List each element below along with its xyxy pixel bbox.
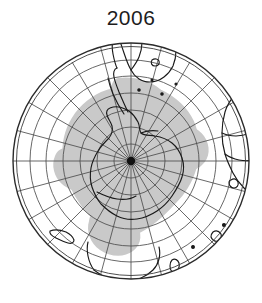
island-macquarie [235,251,237,253]
polar-map [0,32,262,294]
island-heard [192,246,195,249]
figure-title: 2006 [0,6,262,30]
figure-panel: 2006 [0,0,262,303]
island-marker-a [138,89,140,91]
island-kerguelen [39,245,42,248]
island-marker-b [151,79,153,81]
island-marker-d [175,83,177,85]
island-bouvet [232,239,234,241]
island-marker-c [161,93,163,95]
south-pole-marker [127,157,135,165]
